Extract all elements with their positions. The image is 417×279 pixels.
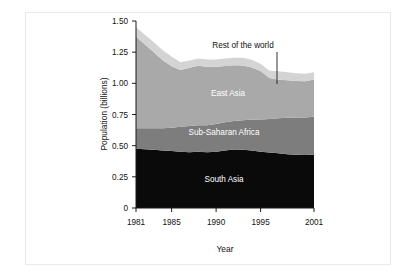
y-tick-label: 0.50 bbox=[112, 142, 128, 151]
x-tick-label: 1981 bbox=[127, 218, 146, 227]
x-tick-label: 1990 bbox=[207, 218, 226, 227]
y-tick-label: 1.25 bbox=[112, 48, 128, 57]
chart-svg: 00.250.500.751.001.251.50 19811985199019… bbox=[0, 0, 417, 279]
x-tick-label: 1985 bbox=[162, 218, 181, 227]
x-axis-ticks: 19811985199019952001 bbox=[127, 208, 324, 227]
y-axis-title: Population (billions) bbox=[99, 77, 109, 150]
series-annotation-rest-of-the-world: Rest of the world bbox=[212, 41, 274, 50]
x-axis-title: Year bbox=[217, 244, 234, 254]
series-annotation-east-asia: East Asia bbox=[211, 89, 246, 98]
series-annotation-sub-saharan-africa: Sub-Saharan Africa bbox=[188, 128, 259, 137]
series-annotation-south-asia: South Asia bbox=[204, 175, 244, 184]
y-tick-label: 0 bbox=[123, 204, 128, 213]
y-tick-label: 0.75 bbox=[112, 111, 128, 120]
x-tick-label: 1995 bbox=[251, 218, 270, 227]
x-tick-label: 2001 bbox=[305, 218, 324, 227]
y-tick-label: 0.25 bbox=[112, 173, 128, 182]
y-tick-label: 1.00 bbox=[112, 79, 128, 88]
stacked-area-chart: 00.250.500.751.001.251.50 19811985199019… bbox=[0, 0, 417, 279]
y-tick-label: 1.50 bbox=[112, 17, 128, 26]
y-axis-ticks: 00.250.500.751.001.251.50 bbox=[112, 17, 136, 213]
